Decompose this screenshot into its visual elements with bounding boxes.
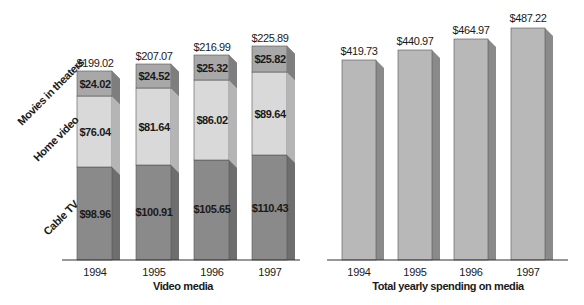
x-tick-label: 1997 <box>516 266 539 278</box>
home-video-value: $81.64 <box>138 121 171 133</box>
cable-tv-value: $98.96 <box>79 208 111 220</box>
stacked-bar-1996 <box>194 55 237 260</box>
stacked-bar-1997 <box>252 46 295 260</box>
home-video-value: $89.64 <box>254 108 287 120</box>
total-spending-chart: $419.73 $440.97 $464.97 $487.22 1994 199… <box>327 12 568 292</box>
legend-cable-tv: Cable TV <box>41 197 81 237</box>
stacked-bar-1995 <box>136 64 179 260</box>
total-label: $440.97 <box>397 35 434 47</box>
legend-movies-in-theaters: Movies in theaters <box>15 56 86 127</box>
x-axis-title: Total yearly spending on media <box>372 280 525 292</box>
total-label: $487.22 <box>510 12 547 24</box>
legend-home-video: Home video <box>31 113 81 163</box>
movies-value: $25.82 <box>254 53 286 65</box>
x-tick-label: 1994 <box>83 266 106 278</box>
x-tick-label: 1994 <box>347 266 370 278</box>
x-axis-title: Video media <box>153 280 214 292</box>
chart-canvas: $199.02 $207.07 $216.99 $225.89 $24.02 $… <box>0 0 584 305</box>
total-label: $464.97 <box>453 24 490 36</box>
bar-1995 <box>398 50 440 260</box>
x-tick-label: 1995 <box>403 266 426 278</box>
movies-value: $24.52 <box>138 70 170 82</box>
movies-value: $24.02 <box>79 78 111 90</box>
cable-tv-value: $100.91 <box>136 206 173 218</box>
bar-1994 <box>342 60 384 260</box>
x-tick-label: 1995 <box>142 266 165 278</box>
total-label: $225.89 <box>252 32 289 44</box>
x-tick-label: 1997 <box>258 266 281 278</box>
video-media-chart: $199.02 $207.07 $216.99 $225.89 $24.02 $… <box>15 32 300 292</box>
home-video-value: $86.02 <box>196 114 228 126</box>
cable-tv-value: $105.65 <box>194 203 231 215</box>
bar-1996 <box>454 39 496 260</box>
movies-value: $25.32 <box>196 62 228 74</box>
total-label: $419.73 <box>341 45 378 57</box>
total-label: $216.99 <box>194 41 231 53</box>
bar-1997 <box>511 28 553 260</box>
stacked-bar-1994 <box>77 71 120 260</box>
x-tick-label: 1996 <box>200 266 223 278</box>
x-tick-label: 1996 <box>459 266 482 278</box>
cable-tv-value: $110.43 <box>252 202 289 214</box>
total-label: $207.07 <box>136 50 173 62</box>
home-video-value: $76.04 <box>79 126 112 138</box>
